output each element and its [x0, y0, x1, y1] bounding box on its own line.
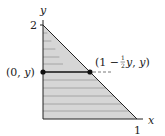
- fraction-denominator: 2: [121, 62, 125, 69]
- left-point-label: (0, y): [6, 66, 35, 79]
- right-label-pre: (1 −: [95, 56, 119, 69]
- x-axis-label: x: [148, 114, 155, 127]
- region-diagram: y 2 x 1 (0, y) (1 − 1 2 y, y): [0, 0, 165, 136]
- right-label-close: ): [145, 56, 149, 69]
- left-endpoint-dot: [40, 69, 45, 74]
- y-tick-label: 2: [30, 19, 37, 32]
- y-axis-label: y: [39, 4, 47, 17]
- left-label-open: (0,: [6, 66, 24, 79]
- fraction-numerator: 1: [121, 54, 125, 61]
- right-point-label: (1 −: [95, 56, 119, 69]
- right-label-mid: ,: [132, 56, 139, 69]
- right-point-label-rest: y, y): [125, 56, 150, 69]
- x-tick-label: 1: [134, 124, 141, 136]
- left-label-close: ): [31, 66, 35, 79]
- right-endpoint-dot: [87, 69, 92, 74]
